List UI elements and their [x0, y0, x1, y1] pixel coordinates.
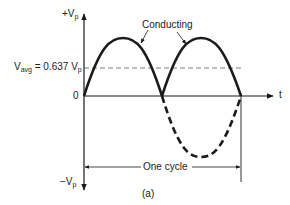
figure-caption: (a) — [142, 189, 154, 199]
negative-half-cycle-dashed — [162, 96, 241, 157]
x-axis-label: t — [279, 90, 282, 100]
positive-half-cycle-2 — [162, 38, 241, 96]
positive-half-cycle-1 — [84, 38, 162, 96]
conducting-arrow-1 — [141, 30, 148, 43]
zero-label: 0 — [73, 91, 79, 101]
y-axis-top-label: +Vp — [62, 9, 78, 20]
y-axis-bottom-label: −Vp — [60, 177, 76, 188]
average-label: Vavg = 0.637 Vp — [14, 62, 82, 73]
conducting-arrow-2 — [177, 32, 186, 44]
one-cycle-label: One cycle — [143, 162, 187, 172]
waveform-diagram — [0, 0, 290, 205]
conducting-label: Conducting — [142, 20, 193, 30]
